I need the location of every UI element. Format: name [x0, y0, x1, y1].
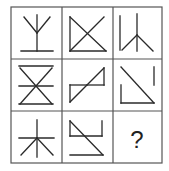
cell-r3c2-figure — [70, 121, 103, 155]
cell-r2c1-figure — [19, 66, 53, 104]
cell-r2c2-figure — [70, 68, 104, 102]
cell-r3c3-question-mark: ? — [130, 126, 143, 153]
cell-r1c2-figure — [70, 17, 106, 51]
puzzle-grid: ? — [0, 0, 169, 171]
cell-r1c1-figure — [21, 15, 53, 51]
cell-r1c3-figure — [120, 14, 153, 51]
cell-r3c1-figure — [19, 120, 54, 157]
cell-r2c3-figure — [121, 67, 154, 103]
